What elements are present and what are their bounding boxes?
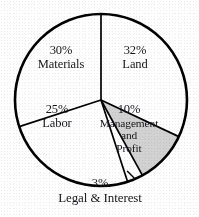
pie-divider-labor-materials <box>19 100 101 127</box>
legal-leader-line <box>127 171 135 179</box>
pie-chart-graphic <box>0 0 199 217</box>
pie-chart: 30% Materials 32% Land 25% Labor 10% Man… <box>0 0 199 217</box>
